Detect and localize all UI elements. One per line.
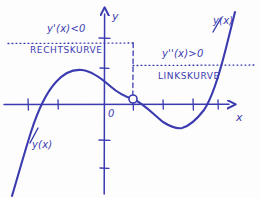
- figure-canvas: [0, 0, 260, 198]
- first-derivative-negative-label: y'(x)<0: [47, 24, 86, 34]
- linkskurve-label: LINKSKURVE: [158, 72, 220, 81]
- inflection-point-marker: [129, 95, 137, 103]
- rechtskurve-dotted-line: [8, 43, 133, 44]
- y-axis-label: y: [112, 11, 119, 22]
- curve-discussion-figure: y'(x)<0 RECHTSKURVE y''(x)>0 LINKSKURVE …: [0, 0, 260, 198]
- x-axis-label: x: [236, 112, 243, 123]
- second-derivative-positive-label: y''(x)>0: [162, 49, 203, 59]
- x-axis: [4, 99, 229, 110]
- origin-label: 0: [108, 109, 115, 119]
- function-label-top-right: y(x): [213, 16, 233, 26]
- function-label-bottom-left: y(x): [32, 140, 52, 150]
- rechtskurve-label: RECHTSKURVE: [30, 46, 103, 55]
- linkskurve-dotted-line: [133, 65, 256, 66]
